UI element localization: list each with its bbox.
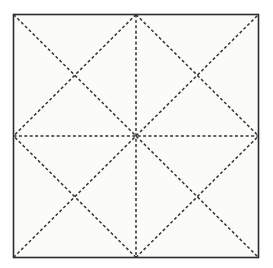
figure-container: [0, 0, 273, 268]
geometric-figure-svg: [0, 0, 273, 268]
